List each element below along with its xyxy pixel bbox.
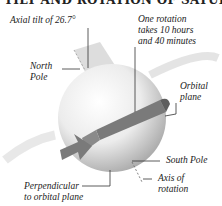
rotation-label: One rotation takes 10 hours and 40 minut… (138, 14, 196, 47)
north-pole-label: North Pole (30, 61, 52, 83)
axial-tilt-label: Axial tilt of 26.7° (10, 15, 76, 26)
rotation-label-line1: One rotation (138, 14, 196, 25)
axis-label-line1: Axis of (158, 173, 188, 184)
rotation-label-line2: takes 10 hours (138, 25, 196, 36)
perpendicular-label: Perpendicular to orbital plane (24, 181, 83, 203)
south-pole-label: South Pole (166, 155, 207, 166)
perpendicular-line1: Perpendicular (24, 181, 83, 192)
north-pole-line1: North (30, 61, 52, 72)
axis-of-rotation-label: Axis of rotation (158, 173, 188, 195)
axis-label-line2: rotation (158, 184, 188, 195)
perpendicular-leader (82, 170, 110, 186)
perpendicular-line2: to orbital plane (24, 192, 83, 203)
orbital-plane-line1: Orbital (180, 81, 208, 92)
orbital-plane-line2: plane (180, 92, 208, 103)
north-pole-line2: Pole (30, 72, 52, 83)
orbital-plane-label: Orbital plane (180, 81, 208, 103)
rotation-label-line3: and 40 minutes (138, 36, 196, 47)
